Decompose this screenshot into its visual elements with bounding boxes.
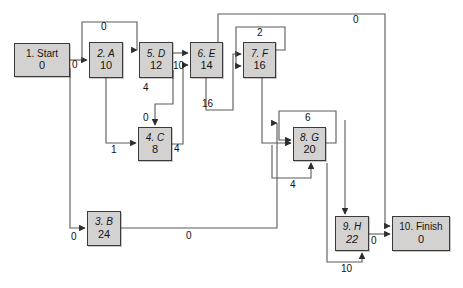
- edge-label-top-long: 0: [353, 15, 359, 25]
- edge-label-start-a: 0: [72, 60, 78, 70]
- node-a-label: 2. A: [97, 48, 114, 60]
- edge-label-a-c: 1: [111, 145, 117, 155]
- edge-d-c: [155, 70, 173, 125]
- edge-label-start-b: 0: [71, 232, 77, 242]
- node-finish-duration: 0: [418, 233, 424, 246]
- edge-label-f-loop: 2: [257, 28, 263, 38]
- edge-c-e: [172, 65, 188, 144]
- node-f[interactable]: 7. F 16: [243, 42, 276, 78]
- node-c-label: 4. C: [146, 132, 164, 144]
- node-finish-label: 10. Finish: [399, 221, 442, 233]
- edge-label-h-finish: 0: [371, 236, 377, 246]
- edge-label-c-e: 4: [174, 144, 180, 154]
- edge-label-b-h: 0: [186, 231, 192, 241]
- edge-label-a-d-top: 0: [101, 22, 107, 32]
- edge-label-g-in-low: 4: [290, 180, 296, 190]
- node-f-label: 7. F: [251, 48, 268, 60]
- node-h-duration: 22: [346, 233, 358, 246]
- edge-a-c: [106, 78, 136, 143]
- node-e-duration: 14: [200, 59, 212, 72]
- node-d[interactable]: 5. D 12: [139, 42, 173, 78]
- node-d-duration: 12: [150, 59, 162, 72]
- network-diagram-canvas: 1. Start 0 2. A 10 5. D 12 6. E 14 7. F …: [0, 0, 463, 288]
- edge-start-b: [70, 68, 85, 228]
- edge-label-c-in-top: 0: [143, 113, 149, 123]
- node-d-label: 5. D: [147, 48, 165, 60]
- node-e[interactable]: 6. E 14: [190, 42, 223, 78]
- edge-label-d-e: 10: [173, 61, 184, 71]
- node-h-label: 9. H: [343, 221, 361, 233]
- edge-label-g-loop: 6: [305, 113, 311, 123]
- edge-label-d-c: 4: [143, 83, 149, 93]
- node-b[interactable]: 3. B 24: [87, 211, 121, 246]
- node-a-duration: 10: [100, 59, 112, 72]
- node-a[interactable]: 2. A 10: [89, 42, 123, 78]
- node-c[interactable]: 4. C 8: [138, 127, 172, 161]
- node-g[interactable]: 8. G 20: [293, 127, 326, 161]
- node-finish[interactable]: 10. Finish 0: [392, 216, 450, 251]
- node-b-label: 3. B: [95, 216, 113, 228]
- edge-label-h-in-low: 10: [341, 264, 352, 274]
- node-e-label: 6. E: [198, 48, 216, 60]
- node-start-label: 1. Start: [26, 48, 58, 60]
- node-h[interactable]: 9. H 22: [335, 216, 369, 251]
- edge-label-e-f: 16: [202, 99, 213, 109]
- node-c-duration: 8: [152, 143, 158, 156]
- node-f-duration: 16: [253, 59, 265, 72]
- node-start[interactable]: 1. Start 0: [14, 43, 70, 77]
- node-g-duration: 20: [303, 143, 315, 156]
- node-start-duration: 0: [39, 59, 45, 72]
- node-g-label: 8. G: [300, 132, 319, 144]
- node-b-duration: 24: [98, 228, 110, 241]
